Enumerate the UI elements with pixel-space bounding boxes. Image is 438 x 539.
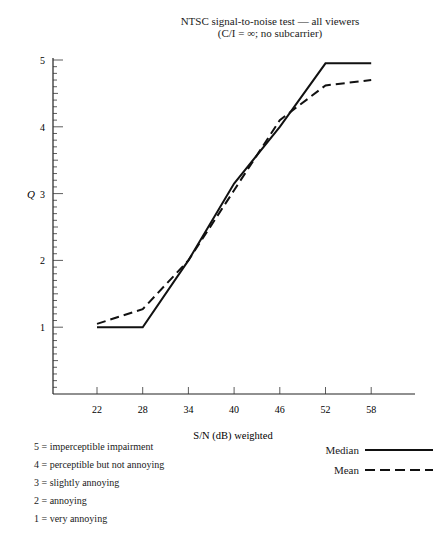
y-axis-label: Q — [27, 188, 35, 200]
scale-legend: 5 = imperceptible impairment 4 = percept… — [34, 440, 164, 530]
scale-item: 1 = very annoying — [34, 512, 164, 530]
series-median — [97, 63, 371, 327]
series-legend: Median Mean — [285, 440, 433, 480]
scale-item: 5 = imperceptible impairment — [34, 440, 164, 458]
x-tick-label: 52 — [321, 404, 331, 415]
x-tick-label: 22 — [92, 404, 102, 415]
y-tick-label: 4 — [40, 122, 45, 133]
dashed-line-swatch — [365, 467, 433, 473]
x-tick-label: 46 — [275, 404, 285, 415]
x-tick-label: 40 — [229, 404, 239, 415]
scale-item: 4 = perceptible but not annoying — [34, 458, 164, 476]
legend-mean: Mean — [285, 460, 433, 480]
x-tick-label: 28 — [138, 404, 148, 415]
legend-label: Mean — [334, 464, 359, 476]
scale-item: 3 = slightly annoying — [34, 476, 164, 494]
x-tick-label: 58 — [366, 404, 376, 415]
legend-label: Median — [325, 444, 359, 456]
y-tick-label: 3 — [40, 189, 45, 200]
scale-item: 2 = annoying — [34, 494, 164, 512]
x-tick-label: 34 — [183, 404, 193, 415]
series-mean — [97, 80, 371, 324]
legend-median: Median — [285, 440, 433, 460]
solid-line-swatch — [365, 447, 433, 453]
x-axis-label: S/N (dB) weighted — [193, 430, 273, 442]
y-tick-label: 5 — [40, 55, 45, 66]
y-tick-label: 1 — [40, 322, 45, 333]
y-tick-label: 2 — [40, 255, 45, 266]
